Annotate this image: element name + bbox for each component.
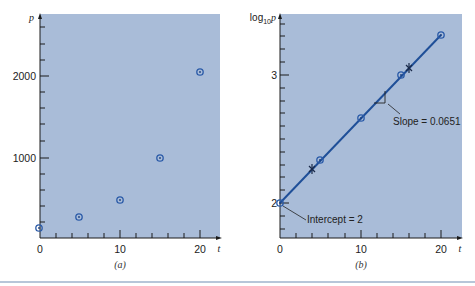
chart-b: 3 2 0 10 20 log10p t (b) Slope = 0.0651 … <box>250 12 463 271</box>
x-tick-label-0: 0 <box>277 243 283 255</box>
caption-b: (b) <box>355 259 367 271</box>
x-axis-title-b: t <box>459 243 462 254</box>
y-axis-title-base: log <box>250 12 263 23</box>
y-tick-label-1000: 1000 <box>13 152 37 164</box>
intercept-annotation: Intercept = 2 <box>307 214 363 225</box>
y-axis-title-var: p <box>270 12 276 23</box>
caption-a: (a) <box>114 259 126 271</box>
chart-a: 2000 1000 0 10 20 p t (a) <box>13 12 222 271</box>
y-tick-label-2000: 2000 <box>13 70 37 82</box>
y-axis-title-sub: 10 <box>263 18 271 25</box>
slope-annotation: Slope = 0.0651 <box>393 116 461 127</box>
x-tick-label-10: 10 <box>355 243 367 255</box>
y-axis-title-b: log10p <box>250 12 276 25</box>
x-tick-label-0: 0 <box>37 243 43 255</box>
y-tick-label-3: 3 <box>271 69 277 81</box>
x-tick-label-10: 10 <box>114 243 126 255</box>
figure: 2000 1000 0 10 20 p t (a) <box>0 0 475 286</box>
x-tick-label-20: 20 <box>435 243 447 255</box>
y-axis-title-a: p <box>28 12 34 23</box>
plot-area-a <box>40 14 220 238</box>
x-axis-title-a: t <box>218 243 221 254</box>
x-tick-label-20: 20 <box>194 243 206 255</box>
